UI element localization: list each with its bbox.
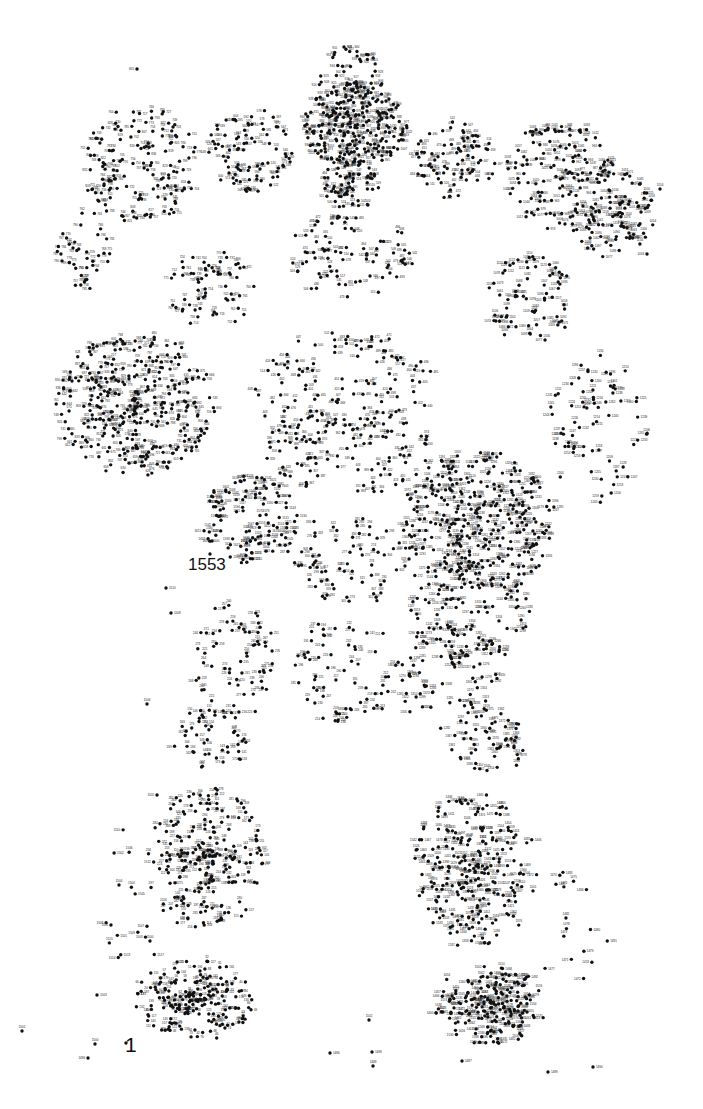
puzzle-dot bbox=[501, 471, 504, 474]
puzzle-dot bbox=[214, 533, 217, 536]
puzzle-dot bbox=[92, 386, 95, 389]
puzzle-dot-number: 40 bbox=[239, 980, 243, 984]
puzzle-dot bbox=[260, 862, 263, 865]
puzzle-dot bbox=[205, 274, 208, 277]
puzzle-dot bbox=[213, 607, 216, 610]
puzzle-dot bbox=[392, 116, 395, 119]
puzzle-dot bbox=[96, 198, 99, 201]
puzzle-dot-number: 715 bbox=[241, 308, 246, 312]
puzzle-dot-number: 1099 bbox=[503, 302, 510, 306]
puzzle-dot bbox=[517, 284, 520, 287]
puzzle-dot-number: 237 bbox=[310, 622, 315, 626]
puzzle-dot bbox=[310, 639, 313, 642]
puzzle-dot-number: 473 bbox=[340, 295, 345, 299]
puzzle-dot-number: 494 bbox=[361, 242, 366, 246]
puzzle-dot bbox=[86, 189, 89, 192]
puzzle-dot bbox=[86, 367, 89, 370]
puzzle-dot-number: 547 bbox=[406, 261, 411, 265]
puzzle-dot-number: 1358 bbox=[462, 939, 469, 943]
puzzle-dot-number: 1182 bbox=[447, 472, 454, 476]
puzzle-dot-number: 1601 bbox=[282, 484, 289, 488]
puzzle-dot-number: 1523 bbox=[467, 886, 474, 890]
puzzle-dot-number: 331 bbox=[402, 541, 407, 545]
puzzle-dot-number: 1570 bbox=[504, 836, 511, 840]
puzzle-dot-number: 1560 bbox=[459, 980, 466, 984]
puzzle-dot-number: 539 bbox=[365, 183, 370, 187]
puzzle-dot-number: 1112 bbox=[508, 269, 515, 273]
puzzle-dot-number: 1452 bbox=[483, 910, 490, 914]
puzzle-dot bbox=[501, 559, 504, 562]
puzzle-dot-number: 174 bbox=[242, 733, 247, 737]
puzzle-dot bbox=[310, 287, 313, 290]
puzzle-dot bbox=[352, 188, 355, 191]
puzzle-dot-number: 1307 bbox=[393, 663, 400, 667]
puzzle-dot bbox=[182, 912, 185, 915]
puzzle-dot-number: 471 bbox=[387, 333, 392, 337]
puzzle-dot-number: 171 bbox=[220, 750, 225, 754]
puzzle-dot-number: 1541 bbox=[451, 1002, 458, 1006]
puzzle-dot-number: 1485 bbox=[559, 882, 566, 886]
puzzle-dot bbox=[611, 391, 614, 394]
puzzle-dot bbox=[618, 202, 621, 205]
puzzle-dot-number: 747 bbox=[182, 293, 187, 297]
puzzle-dot-number: 220 bbox=[212, 826, 217, 830]
puzzle-dot-number: 742 bbox=[145, 450, 150, 454]
puzzle-dot-number: 536 bbox=[367, 162, 372, 166]
puzzle-dot bbox=[516, 177, 519, 180]
puzzle-dot bbox=[146, 168, 149, 171]
puzzle-dot-number: 214 bbox=[216, 870, 221, 874]
puzzle-dot-number: 475 bbox=[474, 140, 479, 144]
puzzle-dot-number: 1316 bbox=[496, 615, 503, 619]
puzzle-dot-number: 716 bbox=[174, 208, 179, 212]
puzzle-dot-number: 257 bbox=[222, 602, 227, 606]
puzzle-dot-number: 1211 bbox=[555, 387, 562, 391]
puzzle-dot-number: 334 bbox=[351, 532, 356, 536]
puzzle-dot-number: 1367 bbox=[480, 541, 487, 545]
puzzle-dot-number: 224 bbox=[370, 698, 375, 702]
puzzle-dot bbox=[502, 1017, 505, 1020]
puzzle-dot bbox=[350, 227, 353, 230]
puzzle-dot-number: 324 bbox=[319, 578, 324, 582]
puzzle-dot bbox=[472, 858, 475, 861]
puzzle-dot bbox=[487, 177, 490, 180]
puzzle-dot-number: 117 bbox=[152, 1014, 157, 1018]
puzzle-dot bbox=[484, 699, 487, 702]
puzzle-dot bbox=[100, 399, 103, 402]
puzzle-dot bbox=[509, 480, 512, 483]
puzzle-dot bbox=[510, 521, 513, 524]
puzzle-dot-number: 980 bbox=[546, 152, 551, 156]
puzzle-dot-number: 1232 bbox=[535, 495, 542, 499]
puzzle-dot bbox=[576, 173, 579, 176]
puzzle-dot bbox=[399, 453, 402, 456]
puzzle-dot bbox=[482, 1000, 485, 1003]
puzzle-dot-number: 506 bbox=[331, 205, 336, 209]
puzzle-dot bbox=[369, 91, 372, 94]
puzzle-dot-number: 319 bbox=[326, 587, 331, 591]
puzzle-dot bbox=[275, 147, 278, 150]
puzzle-dot bbox=[370, 563, 373, 566]
puzzle-dot bbox=[405, 523, 408, 526]
puzzle-dot bbox=[197, 676, 200, 679]
puzzle-dot bbox=[442, 990, 445, 993]
puzzle-dot-number: 799 bbox=[57, 437, 62, 441]
puzzle-dot-number: 1081 bbox=[574, 168, 581, 172]
puzzle-dot-number: 1272 bbox=[536, 481, 543, 485]
puzzle-dot-number: 1584 bbox=[225, 499, 232, 503]
puzzle-dot bbox=[204, 419, 207, 422]
puzzle-dot bbox=[541, 531, 544, 534]
puzzle-dot-number: 663 bbox=[165, 451, 170, 455]
puzzle-dot bbox=[387, 337, 390, 340]
puzzle-dot-number: 1204 bbox=[438, 503, 445, 507]
puzzle-dot bbox=[293, 561, 296, 564]
puzzle-dot-number: 1206 bbox=[643, 428, 650, 432]
puzzle-dot bbox=[120, 214, 123, 217]
puzzle-dot bbox=[515, 498, 518, 501]
puzzle-dot bbox=[348, 551, 351, 554]
puzzle-dot bbox=[197, 375, 200, 378]
puzzle-dot-number: 1510 bbox=[498, 962, 505, 966]
puzzle-dot bbox=[61, 378, 64, 381]
puzzle-dot bbox=[269, 445, 272, 448]
puzzle-dot bbox=[559, 145, 562, 148]
puzzle-dot-number: 1297 bbox=[457, 715, 464, 719]
puzzle-dot-number: 1067 bbox=[606, 191, 613, 195]
